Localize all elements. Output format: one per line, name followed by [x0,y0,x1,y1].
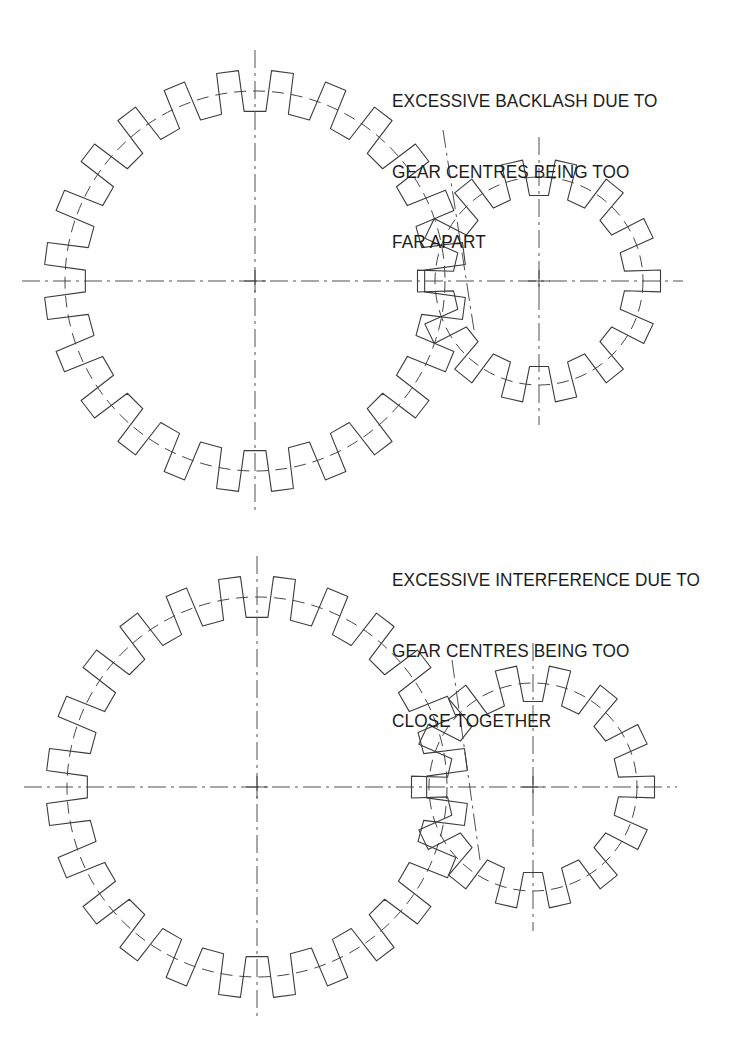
drawing-sheet: EXCESSIVE BACKLASH DUE TO GEAR CENTRES B… [0,0,730,1052]
note-line: FAR APART [392,230,658,254]
note-line: GEAR CENTRES BEING TOO [392,639,700,663]
note-line: GEAR CENTRES BEING TOO [392,160,658,184]
note-line: CLOSE TOGETHER [392,709,700,733]
excessive-interference-note: EXCESSIVE INTERFERENCE DUE TO GEAR CENTR… [392,521,700,780]
note-line: EXCESSIVE BACKLASH DUE TO [392,89,658,113]
note-line: EXCESSIVE INTERFERENCE DUE TO [392,568,700,592]
excessive-backlash-note: EXCESSIVE BACKLASH DUE TO GEAR CENTRES B… [392,42,658,301]
